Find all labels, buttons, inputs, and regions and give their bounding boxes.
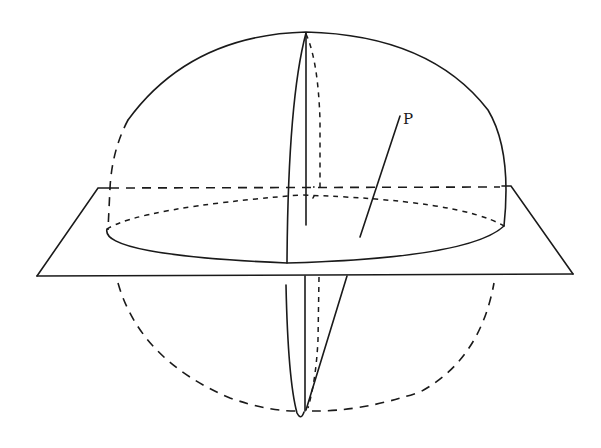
upper-hemisphere-hidden-left — [108, 120, 128, 230]
equator-front — [107, 226, 504, 263]
sphere-plane-diagram: P — [0, 0, 601, 448]
label-p: P — [403, 110, 413, 128]
hidden-meridian-upper — [306, 34, 320, 187]
slanted-line-lower — [306, 276, 347, 410]
meridian-lens-lower — [286, 285, 304, 417]
hidden-tick — [313, 196, 314, 198]
hidden-meridian-lower — [308, 277, 319, 408]
upper-hemisphere-arc — [128, 32, 506, 226]
line-to-p — [360, 116, 400, 237]
plane-left-edge — [37, 188, 110, 276]
lower-hemisphere-arc — [118, 283, 494, 411]
plane-back-edge-hidden — [110, 187, 500, 188]
meridian-lens-upper — [287, 33, 306, 263]
plane-right-edge — [502, 186, 573, 274]
